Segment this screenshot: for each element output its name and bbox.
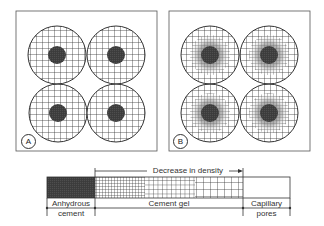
cement-hydration-diagram bbox=[0, 0, 324, 226]
capillary-label-line1: Capillary bbox=[243, 199, 290, 208]
panel-a bbox=[16, 11, 157, 151]
grain-b2 bbox=[240, 26, 298, 84]
gel-coarse-segment bbox=[195, 177, 243, 198]
anhydrous-label-line2: cement bbox=[47, 209, 95, 218]
anhydrous-label-line1: Anhydrous bbox=[47, 199, 95, 208]
capillary-segment bbox=[243, 177, 290, 198]
grain-a2 bbox=[87, 26, 145, 84]
anhydrous-segment bbox=[47, 177, 95, 198]
grain-a4 bbox=[87, 84, 145, 142]
panel-b bbox=[169, 11, 310, 151]
density-arrow-label: Decrease in density bbox=[148, 166, 228, 175]
grain-a3 bbox=[29, 84, 87, 142]
panel-label-a: A bbox=[21, 134, 36, 149]
grain-a1 bbox=[28, 26, 86, 84]
gel-fine-segment bbox=[95, 177, 145, 198]
grain-b1 bbox=[181, 26, 239, 84]
gel-medium-segment bbox=[145, 177, 195, 198]
cement-gel-label: Cement gel bbox=[95, 199, 243, 208]
panel-label-b: B bbox=[173, 134, 188, 149]
grain-b4 bbox=[240, 84, 298, 142]
arrowhead-icon bbox=[238, 169, 243, 173]
grain-b3 bbox=[181, 84, 239, 142]
capillary-label-line2: pores bbox=[243, 209, 290, 218]
